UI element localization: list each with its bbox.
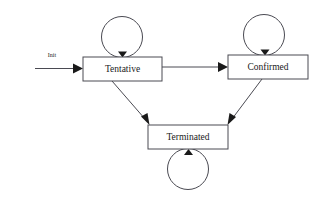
self-loop-tentative [102, 17, 143, 58]
state-confirmed-label: Confirmed [247, 62, 288, 72]
transition-confirmed-to-terminated [228, 79, 263, 125]
tentative-terminated-arrowhead [141, 113, 150, 125]
transition-init-to-tentative: Init [35, 52, 83, 73]
self-loop-terminated [168, 149, 209, 190]
tentative-terminated-line [112, 81, 145, 119]
init-arrowhead [73, 64, 83, 74]
self-loop-confirmed [244, 15, 285, 56]
state-terminated[interactable]: Terminated [148, 125, 228, 149]
transition-tentative-to-terminated [112, 81, 150, 125]
state-tentative-label: Tentative [105, 64, 140, 74]
state-terminated-label: Terminated [166, 132, 209, 142]
transition-tentative-to-confirmed [162, 62, 228, 72]
state-tentative[interactable]: Tentative [83, 57, 162, 81]
state-confirmed[interactable]: Confirmed [228, 55, 308, 79]
self-loop-tentative-circle [102, 17, 143, 58]
tentative-confirmed-arrowhead [218, 62, 228, 72]
diagram-canvas: Init Tentative Confirmed [0, 0, 326, 205]
init-label: Init [48, 52, 57, 58]
state-diagram: Init Tentative Confirmed [0, 0, 326, 205]
confirmed-terminated-line [232, 79, 262, 119]
self-loop-confirmed-circle [244, 15, 285, 56]
self-loop-terminated-arrowhead [184, 149, 193, 155]
